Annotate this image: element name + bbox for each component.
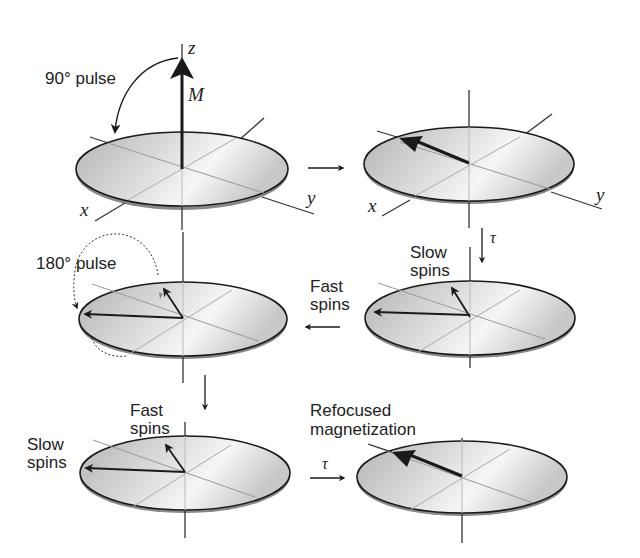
- tau-label-1: τ: [490, 229, 497, 246]
- axis-y-label: y: [594, 184, 605, 205]
- tau-label-2: τ: [322, 455, 329, 472]
- axis-z-label: z: [187, 37, 196, 58]
- panel-4-dephasing: Slow spins Fast spins: [310, 243, 575, 368]
- panel-3-after-180: 180° pulse: [36, 232, 287, 383]
- panel-1-initial: 90° pulse z M x y: [45, 37, 316, 230]
- fast-spins-label-2: spins: [130, 419, 170, 438]
- slow-spins-label-2: spins: [410, 261, 450, 280]
- pulse-90-label: 90° pulse: [45, 69, 116, 88]
- panel-2-after-90: x y: [364, 90, 605, 228]
- slow-spins-label-2: spins: [27, 453, 67, 472]
- refocused-label-2: magnetization: [310, 420, 416, 439]
- panel-5-rephasing: Fast spins Slow spins: [27, 401, 290, 538]
- panel-6-refocused: Refocused magnetization: [310, 401, 567, 543]
- fast-spins-label: Fast: [310, 277, 343, 296]
- fast-spins-label: Fast: [130, 401, 163, 420]
- pulse-180-label: 180° pulse: [36, 254, 117, 273]
- fast-spins-label-2: spins: [310, 295, 350, 314]
- axis-y-label: y: [305, 187, 316, 208]
- slow-spins-label: Slow: [410, 243, 448, 262]
- axis-x-label: x: [79, 199, 89, 220]
- magnetization-label: M: [187, 84, 205, 105]
- pulse-90-arrow: [115, 58, 178, 132]
- axis-x-label: x: [367, 195, 377, 216]
- slow-spins-label: Slow: [27, 435, 65, 454]
- spin-echo-diagram: 90° pulse z M x y x y τ Sl: [0, 0, 640, 558]
- refocused-label: Refocused: [310, 401, 391, 420]
